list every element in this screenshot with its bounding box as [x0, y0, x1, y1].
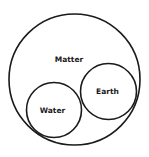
matter-label: Matter — [55, 55, 84, 64]
matter-circle — [9, 14, 140, 145]
set-water: Water — [27, 83, 82, 138]
euler-diagram: Matter Earth Water — [0, 0, 149, 157]
set-earth: Earth — [81, 64, 137, 120]
set-matter: Matter — [9, 14, 140, 145]
water-label: Water — [40, 106, 66, 115]
earth-label: Earth — [96, 87, 119, 96]
